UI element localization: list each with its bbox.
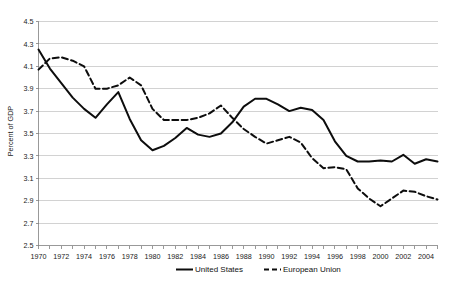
y-tick-label: 2.5 bbox=[24, 241, 34, 250]
legend-label-european-union: European Union bbox=[283, 265, 341, 274]
y-tick-label: 3.3 bbox=[24, 152, 34, 161]
x-tick-label: 2002 bbox=[395, 252, 411, 261]
x-tick-label: 1996 bbox=[327, 252, 343, 261]
y-axis-tick-labels: 2.52.72.93.13.33.53.73.94.14.34.5 bbox=[24, 17, 34, 250]
x-tick-label: 1972 bbox=[53, 252, 69, 261]
legend-label-united-states: United States bbox=[195, 265, 243, 274]
x-tick-label: 1974 bbox=[76, 252, 92, 261]
x-axis-tick-labels: 1970197219741976197819801982198419861988… bbox=[31, 252, 435, 261]
x-tick-label: 1990 bbox=[259, 252, 275, 261]
x-tick-label: 1984 bbox=[190, 252, 206, 261]
series-line-european-union bbox=[39, 57, 438, 206]
x-tick-label: 2004 bbox=[418, 252, 434, 261]
x-tick-label: 2000 bbox=[373, 252, 389, 261]
chart-container: 2.52.72.93.13.33.53.73.94.14.34.5 197019… bbox=[0, 0, 452, 288]
x-tick-label: 1992 bbox=[281, 252, 297, 261]
x-tick-label: 1970 bbox=[31, 252, 47, 261]
y-tick-label: 2.7 bbox=[24, 219, 34, 228]
y-tick-label: 3.5 bbox=[24, 129, 34, 138]
x-tick-label: 1978 bbox=[122, 252, 138, 261]
y-tick-label: 2.9 bbox=[24, 196, 34, 205]
y-tick-label: 3.9 bbox=[24, 84, 34, 93]
y-tick-label: 3.1 bbox=[24, 174, 34, 183]
y-tick-label: 4.5 bbox=[24, 17, 34, 26]
x-tick-label: 1994 bbox=[304, 252, 320, 261]
data-series-group bbox=[39, 50, 438, 207]
y-tick-label: 4.3 bbox=[24, 40, 34, 49]
x-tick-label: 1982 bbox=[167, 252, 183, 261]
x-tick-label: 1988 bbox=[236, 252, 252, 261]
y-tick-label: 4.1 bbox=[24, 62, 34, 71]
gridlines-group bbox=[36, 22, 438, 246]
x-tick-label: 1986 bbox=[213, 252, 229, 261]
chart-legend: United StatesEuropean Union bbox=[176, 265, 341, 274]
x-tick-label: 1998 bbox=[350, 252, 366, 261]
x-tick-label: 1980 bbox=[145, 252, 161, 261]
y-axis-title: Percent of GDP bbox=[6, 106, 15, 157]
x-tick-label: 1976 bbox=[99, 252, 115, 261]
x-axis-tick-marks bbox=[39, 246, 438, 249]
y-tick-label: 3.7 bbox=[24, 107, 34, 116]
line-chart: 2.52.72.93.13.33.53.73.94.14.34.5 197019… bbox=[0, 0, 452, 288]
